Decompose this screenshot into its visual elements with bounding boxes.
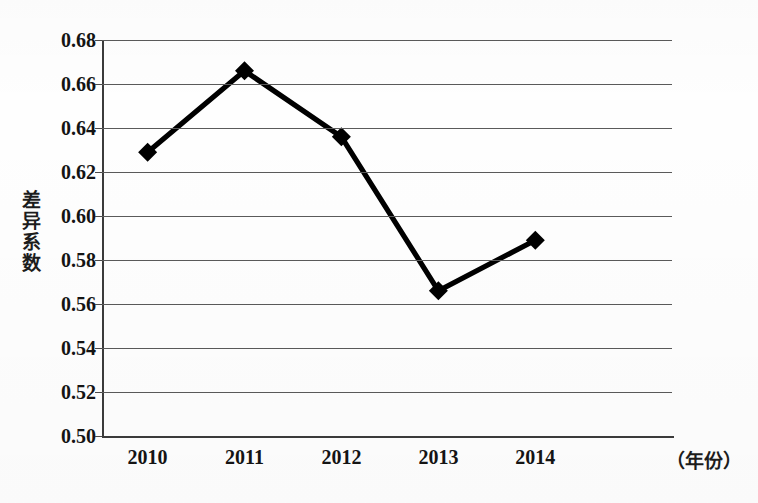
y-tick-mark xyxy=(95,172,102,173)
gridline xyxy=(102,348,672,349)
plot-area xyxy=(102,40,672,436)
gridline xyxy=(102,392,672,393)
y-tick-label: 0.52 xyxy=(30,381,96,404)
gridline xyxy=(102,40,672,41)
y-tick-mark xyxy=(95,128,102,129)
y-tick-label: 0.60 xyxy=(30,205,96,228)
y-tick-label: 0.54 xyxy=(30,337,96,360)
y-tick-mark xyxy=(95,216,102,217)
y-tick-label: 0.62 xyxy=(30,161,96,184)
y-tick-mark xyxy=(95,436,102,437)
y-tick-mark xyxy=(95,84,102,85)
y-tick-label: 0.64 xyxy=(30,117,96,140)
y-tick-label: 0.50 xyxy=(30,425,96,448)
y-tick-mark xyxy=(95,392,102,393)
data-point-marker xyxy=(526,231,545,250)
y-tick-mark xyxy=(95,260,102,261)
data-series-line xyxy=(102,40,672,436)
x-tick-label: 2012 xyxy=(286,446,396,469)
y-axis-tick-labels: 0.680.660.640.620.600.580.560.540.520.50 xyxy=(20,0,96,503)
series-polyline xyxy=(148,71,536,291)
gridline xyxy=(102,304,672,305)
x-axis-unit-label: （年份） xyxy=(666,446,742,473)
x-tick-label: 2010 xyxy=(93,446,203,469)
y-tick-label: 0.56 xyxy=(30,293,96,316)
gridline xyxy=(102,216,672,217)
gridline xyxy=(102,84,672,85)
y-tick-label: 0.58 xyxy=(30,249,96,272)
x-tick-label: 2011 xyxy=(190,446,300,469)
gridline xyxy=(102,172,672,173)
x-tick-label: 2013 xyxy=(383,446,493,469)
y-tick-label: 0.68 xyxy=(30,29,96,52)
chart-figure: 差异系数 0.680.660.640.620.600.580.560.540.5… xyxy=(0,0,758,503)
y-tick-mark xyxy=(95,40,102,41)
y-tick-mark xyxy=(95,348,102,349)
gridline xyxy=(102,260,672,261)
x-axis-tick-labels: 20102011201220132014 xyxy=(102,446,758,480)
gridline xyxy=(102,128,672,129)
x-tick-label: 2014 xyxy=(480,446,590,469)
y-tick-mark xyxy=(95,304,102,305)
y-tick-label: 0.66 xyxy=(30,73,96,96)
x-axis-line xyxy=(102,436,674,438)
